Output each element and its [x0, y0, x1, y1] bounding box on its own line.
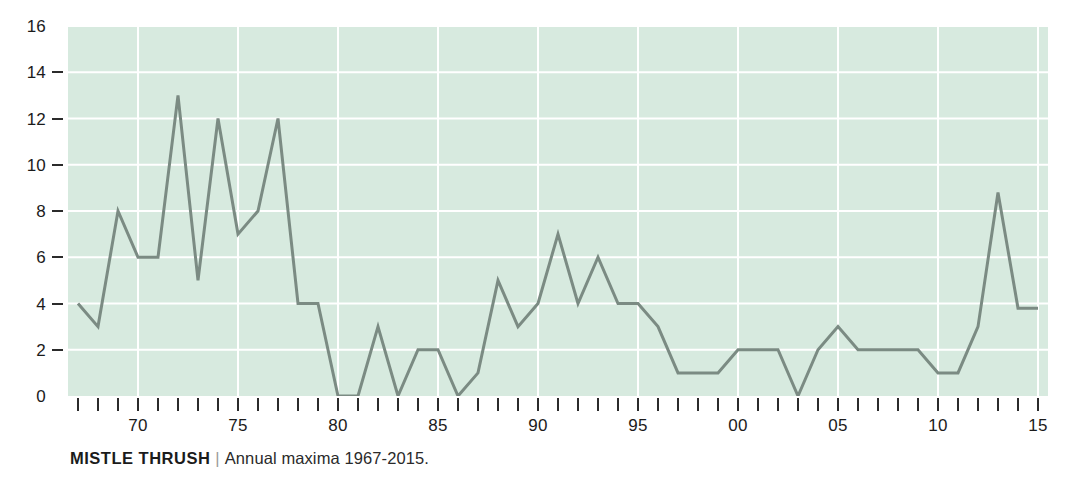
- y-axis-label: 10: [0, 156, 46, 173]
- x-axis-tick: [977, 398, 979, 411]
- y-axis-tick: [52, 118, 63, 120]
- x-axis-tick: [157, 398, 159, 411]
- x-axis-tick: [797, 398, 799, 411]
- caption-species: MISTLE THRUSH: [70, 449, 210, 467]
- y-axis: 0246810121416: [0, 0, 46, 489]
- y-axis-label: 0: [0, 388, 46, 405]
- x-axis-labels: 70758085909500051015: [68, 416, 1048, 440]
- x-axis-tick: [697, 398, 699, 411]
- x-axis-tick: [457, 398, 459, 411]
- y-axis-label: 8: [0, 203, 46, 220]
- x-axis-ticks: [68, 398, 1048, 412]
- x-axis-tick: [317, 398, 319, 411]
- y-axis-tick: [52, 71, 63, 73]
- x-axis-tick: [137, 398, 139, 411]
- x-axis-tick: [217, 398, 219, 411]
- data-series-line: [78, 95, 1038, 396]
- y-axis-tick: [52, 303, 63, 305]
- caption-description: Annual maxima 1967-2015.: [225, 449, 429, 467]
- x-axis-tick: [877, 398, 879, 411]
- gridlines: [68, 26, 1048, 396]
- x-axis-tick: [497, 398, 499, 411]
- x-axis-tick: [357, 398, 359, 411]
- x-axis-label: 80: [328, 416, 347, 436]
- x-axis-tick: [857, 398, 859, 411]
- x-axis-tick: [937, 398, 939, 411]
- x-axis-tick: [97, 398, 99, 411]
- y-axis-tick: [52, 210, 63, 212]
- x-axis-tick: [677, 398, 679, 411]
- x-axis-label: 10: [928, 416, 947, 436]
- x-axis-tick: [577, 398, 579, 411]
- x-axis-tick: [337, 398, 339, 411]
- x-axis-label: 05: [828, 416, 847, 436]
- caption-separator: |: [210, 449, 224, 467]
- x-axis-tick: [597, 398, 599, 411]
- x-axis-tick: [837, 398, 839, 411]
- x-axis-tick: [197, 398, 199, 411]
- x-axis-tick: [237, 398, 239, 411]
- x-axis-label: 00: [728, 416, 747, 436]
- y-axis-label: 16: [0, 18, 46, 35]
- y-axis-tick: [52, 256, 63, 258]
- x-axis-tick: [717, 398, 719, 411]
- x-axis-tick: [777, 398, 779, 411]
- plot-area: [68, 26, 1048, 396]
- y-axis-tick: [52, 349, 63, 351]
- x-axis-tick: [617, 398, 619, 411]
- x-axis-tick: [1017, 398, 1019, 411]
- x-axis-tick: [917, 398, 919, 411]
- x-axis-label: 90: [528, 416, 547, 436]
- x-axis-tick: [637, 398, 639, 411]
- x-axis-label: 75: [228, 416, 247, 436]
- x-axis-tick: [657, 398, 659, 411]
- x-axis-tick: [957, 398, 959, 411]
- x-axis-label: 70: [128, 416, 147, 436]
- x-axis-label: 15: [1028, 416, 1047, 436]
- x-axis-tick: [757, 398, 759, 411]
- x-axis-tick: [377, 398, 379, 411]
- x-axis-label: 85: [428, 416, 447, 436]
- x-axis-tick: [397, 398, 399, 411]
- x-axis-tick: [177, 398, 179, 411]
- x-axis-tick: [277, 398, 279, 411]
- x-axis-tick: [77, 398, 79, 411]
- y-axis-label: 6: [0, 249, 46, 266]
- line-chart-svg: [68, 26, 1048, 396]
- x-axis-tick: [737, 398, 739, 411]
- y-axis-label: 12: [0, 110, 46, 127]
- x-axis-tick: [997, 398, 999, 411]
- caption: MISTLE THRUSH|Annual maxima 1967-2015.: [70, 449, 429, 468]
- x-axis-tick: [477, 398, 479, 411]
- y-axis-tick: [52, 164, 63, 166]
- x-axis-tick: [537, 398, 539, 411]
- x-axis-tick: [817, 398, 819, 411]
- x-axis-tick: [417, 398, 419, 411]
- x-axis-tick: [517, 398, 519, 411]
- y-axis-label: 4: [0, 295, 46, 312]
- x-axis-tick: [437, 398, 439, 411]
- series-polyline: [78, 95, 1038, 396]
- x-axis-tick: [257, 398, 259, 411]
- y-axis-label: 14: [0, 64, 46, 81]
- x-axis-label: 95: [628, 416, 647, 436]
- chart-figure: 0246810121416 70758085909500051015 MISTL…: [0, 0, 1067, 489]
- y-axis-label: 2: [0, 341, 46, 358]
- x-axis-tick: [557, 398, 559, 411]
- x-axis-tick: [897, 398, 899, 411]
- x-axis-tick: [297, 398, 299, 411]
- x-axis-tick: [117, 398, 119, 411]
- x-axis-tick: [1037, 398, 1039, 411]
